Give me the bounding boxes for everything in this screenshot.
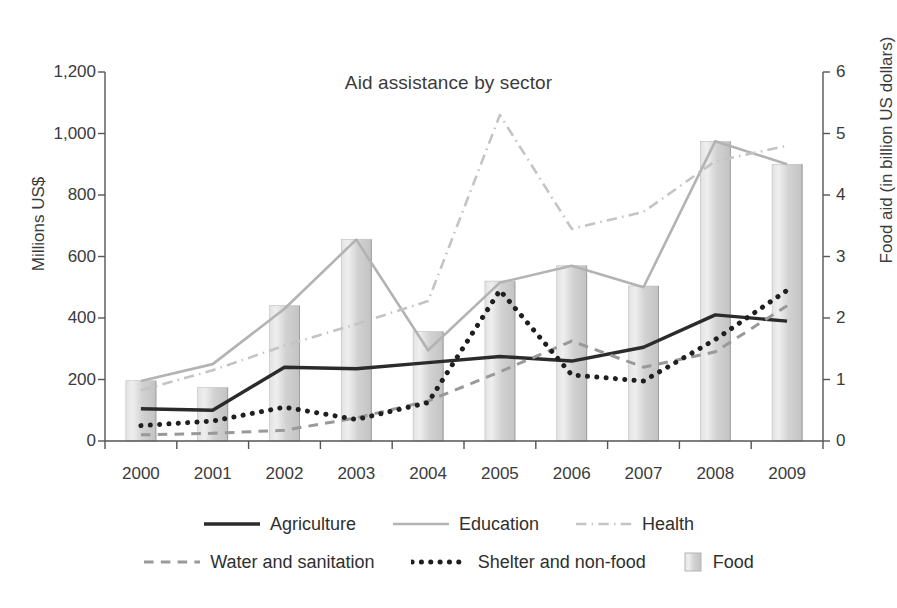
x-axis-tick-label: 2006 bbox=[537, 465, 607, 482]
x-axis-tick-label: 2000 bbox=[106, 465, 176, 482]
series-lines-layer bbox=[141, 115, 787, 435]
legend-label: Water and sanitation bbox=[210, 552, 374, 573]
y-axis-right-tick-label: 5 bbox=[836, 125, 876, 142]
food-bars-layer bbox=[126, 141, 802, 441]
dashed-line-swatch bbox=[143, 554, 201, 570]
y-axis-left-tick-label: 800 bbox=[6, 186, 96, 203]
x-axis-tick-label: 2005 bbox=[465, 465, 535, 482]
series-line-education bbox=[141, 141, 787, 381]
y-axis-left-tick-label: 0 bbox=[6, 432, 96, 449]
food-bar bbox=[557, 266, 587, 441]
x-axis-tick-label: 2003 bbox=[321, 465, 391, 482]
dotted-line-swatch bbox=[411, 554, 469, 570]
y-axis-left-tick-label: 400 bbox=[6, 309, 96, 326]
legend-label: Agriculture bbox=[270, 514, 356, 535]
y-axis-left-tick-label: 200 bbox=[6, 371, 96, 388]
legend-label: Health bbox=[642, 514, 694, 535]
food-bar bbox=[772, 164, 802, 441]
chart-legend: AgricultureEducationHealthWater and sani… bbox=[0, 505, 897, 581]
food-bar bbox=[700, 141, 730, 441]
y-axis-right-tick-label: 4 bbox=[836, 186, 876, 203]
legend-label: Education bbox=[459, 514, 539, 535]
legend-label: Shelter and non-food bbox=[478, 552, 646, 573]
y-axis-right-tick-label: 3 bbox=[836, 248, 876, 265]
solid-dark-line-swatch bbox=[203, 516, 261, 532]
legend-item-water-and-sanitation[interactable]: Water and sanitation bbox=[143, 552, 374, 573]
legend-item-shelter-and-non-food[interactable]: Shelter and non-food bbox=[411, 552, 646, 573]
solid-gray-line-swatch bbox=[392, 516, 450, 532]
y-axis-right-tick-label: 0 bbox=[836, 432, 876, 449]
legend-item-education[interactable]: Education bbox=[392, 514, 539, 535]
x-axis-tick-label: 2008 bbox=[680, 465, 750, 482]
food-bar bbox=[485, 281, 515, 441]
chart-figure: Aid assistance by sector Millions US$ Fo… bbox=[0, 0, 897, 608]
y-axis-right-tick-label: 1 bbox=[836, 371, 876, 388]
dashdot-line-swatch bbox=[575, 516, 633, 532]
bar-swatch bbox=[682, 551, 704, 573]
y-axis-right-tick-label: 6 bbox=[836, 63, 876, 80]
x-axis-tick-label: 2007 bbox=[609, 465, 679, 482]
x-axis-tick-label: 2001 bbox=[178, 465, 248, 482]
series-line-agriculture bbox=[141, 315, 787, 410]
food-bar bbox=[341, 239, 371, 441]
x-axis-tick-label: 2002 bbox=[250, 465, 320, 482]
legend-item-agriculture[interactable]: Agriculture bbox=[203, 514, 356, 535]
legend-item-health[interactable]: Health bbox=[575, 514, 694, 535]
legend-row: Water and sanitationShelter and non-food… bbox=[0, 543, 897, 581]
x-axis-tick-label: 2004 bbox=[393, 465, 463, 482]
legend-row: AgricultureEducationHealth bbox=[0, 505, 897, 543]
y-axis-left-tick-label: 1,000 bbox=[6, 125, 96, 142]
legend-label: Food bbox=[713, 552, 754, 573]
y-axis-left-tick-label: 1,200 bbox=[6, 63, 96, 80]
legend-item-food[interactable]: Food bbox=[682, 551, 754, 573]
x-axis-tick-label: 2009 bbox=[752, 465, 822, 482]
y-axis-left-tick-label: 600 bbox=[6, 248, 96, 265]
y-axis-right-tick-label: 2 bbox=[836, 309, 876, 326]
